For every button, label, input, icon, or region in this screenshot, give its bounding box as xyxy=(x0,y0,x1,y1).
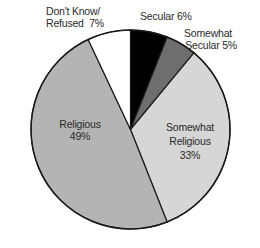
label-religious: Religious 49% xyxy=(50,118,110,142)
label-secular-line1: Secular 6% xyxy=(140,10,192,22)
label-somewhat-religious: Somewhat Religious 33% xyxy=(160,120,220,162)
label-somewhat-religious-line1: Somewhat xyxy=(160,120,220,134)
label-religious-line2: 49% xyxy=(50,130,110,142)
label-secular: Secular 6% xyxy=(140,10,192,22)
label-religious-line1: Religious xyxy=(50,118,110,130)
label-dont-know: Don't Know/ Refused 7% xyxy=(46,5,104,29)
label-somewhat-secular-line2: Secular 5% xyxy=(180,39,237,51)
label-somewhat-secular: Somewhat Secular 5% xyxy=(180,27,237,51)
label-somewhat-secular-line1: Somewhat xyxy=(180,27,237,39)
label-dont-know-line1: Don't Know/ xyxy=(46,5,104,17)
label-somewhat-religious-line2: Religious xyxy=(160,134,220,148)
label-dont-know-line2: Refused 7% xyxy=(46,17,104,29)
label-somewhat-religious-line3: 33% xyxy=(160,148,220,162)
